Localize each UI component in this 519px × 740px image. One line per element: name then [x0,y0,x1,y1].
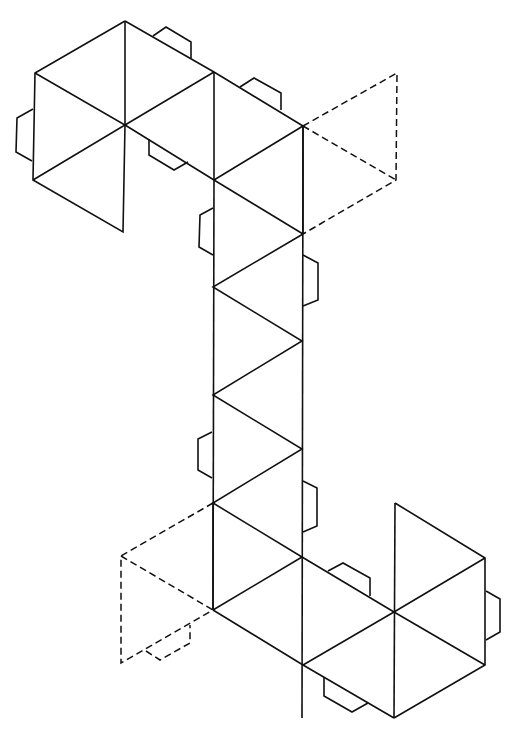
polyhedron-net-diagram [0,0,519,740]
fold-line [394,503,395,718]
tab-top-right [240,78,281,110]
fold-line [394,503,485,718]
fold-line [302,557,485,612]
fold-line [125,72,214,125]
tab-hex2-right [486,591,500,640]
tab-column-left-upper [199,208,213,255]
dashed-line [303,126,396,180]
tab-column-left-lower [198,432,212,478]
fold-line [302,126,303,718]
fold-line [33,21,125,232]
dashed-line [121,503,213,663]
tab-hex1-left [16,109,33,161]
tab-hex2-bottom [324,677,368,712]
fold-line [303,612,394,665]
tab-column-right-upper [303,255,318,306]
glue-tabs [16,27,500,712]
solid-fold-lines [33,21,485,718]
fold-line [394,612,485,665]
fold-line [213,557,302,610]
tab-hex2-top [328,563,370,596]
fold-line [213,234,303,557]
fold-line [214,180,303,234]
tab-dashed-bottom [146,625,190,660]
dashed-line [303,73,397,234]
dashed-line [121,556,213,610]
tab-hex1-top [153,27,191,58]
fold-line [33,73,125,180]
tab-column-right-lower [303,481,317,532]
